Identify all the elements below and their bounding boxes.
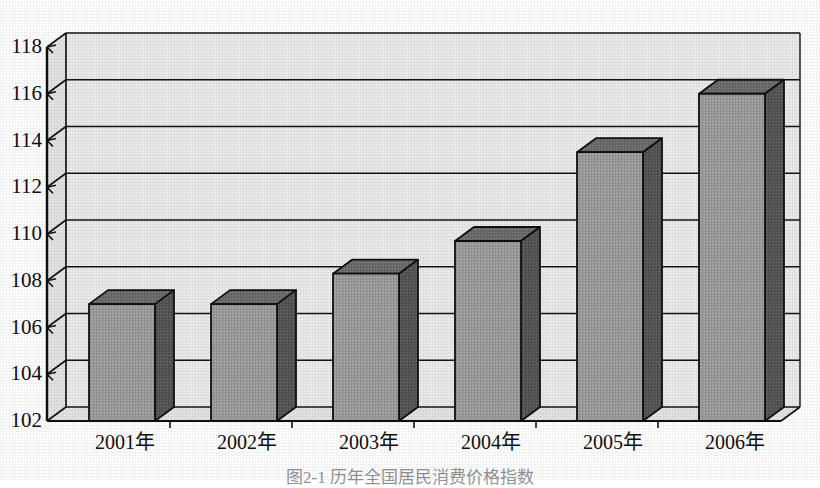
y-tick-label-116: 116: [0, 83, 42, 104]
y-tick-label-112: 112: [0, 176, 42, 197]
y-tick-label-118: 118: [0, 36, 42, 57]
y-tick-label-102: 102: [0, 410, 42, 431]
bar-2005[interactable]: [577, 138, 662, 421]
figure-caption: 图2-1 历年全国居民消费价格指数: [0, 463, 820, 488]
x-tick-label-2001: 2001年: [60, 432, 190, 452]
x-tick-label-2006: 2006年: [670, 432, 800, 452]
bar-2003[interactable]: [333, 260, 418, 421]
x-tick-label-2003: 2003年: [304, 432, 434, 452]
bar-2002[interactable]: [211, 290, 296, 421]
y-tick-label-104: 104: [0, 363, 42, 384]
y-tick-label-110: 110: [0, 223, 42, 244]
y-tick-label-106: 106: [0, 317, 42, 338]
x-tick-label-2005: 2005年: [548, 432, 678, 452]
bar-2006[interactable]: [699, 80, 784, 421]
y-tick-label-108: 108: [0, 270, 42, 291]
bar-2001[interactable]: [89, 290, 174, 421]
x-tick-label-2004: 2004年: [426, 432, 556, 452]
x-tick-label-2002: 2002年: [182, 432, 312, 452]
y-tick-label-114: 114: [0, 130, 42, 151]
bar-2004[interactable]: [455, 227, 540, 421]
